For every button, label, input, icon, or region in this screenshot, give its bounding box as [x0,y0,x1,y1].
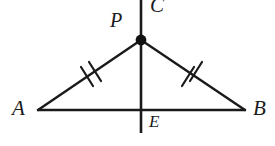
vertex-label-B: B [253,98,266,119]
vertex-label-C: C [150,0,164,16]
vertex-point-P [136,35,147,46]
geometry-diagram-canvas [0,0,275,146]
vertex-label-A: A [12,98,25,119]
vertex-label-P: P [110,10,122,30]
line-segment-AP [38,40,141,110]
vertex-label-E: E [149,113,159,130]
geometry-figure: A B P C E [0,0,275,146]
